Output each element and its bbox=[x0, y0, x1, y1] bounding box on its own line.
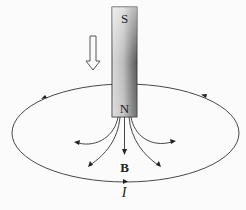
magnet-loop-diagram: S N B I bbox=[0, 0, 246, 210]
bar-magnet: S N bbox=[112, 7, 137, 117]
current-label-I: I bbox=[121, 185, 128, 200]
downward-motion-arrow-icon bbox=[86, 36, 100, 70]
field-lines bbox=[78, 117, 172, 165]
field-label-B: B bbox=[120, 160, 129, 175]
north-pole-label: N bbox=[120, 101, 130, 116]
loop-arrow-bottom-icon bbox=[123, 179, 128, 184]
diagram-canvas: S N B I bbox=[0, 0, 246, 210]
south-pole-label: S bbox=[121, 11, 128, 26]
